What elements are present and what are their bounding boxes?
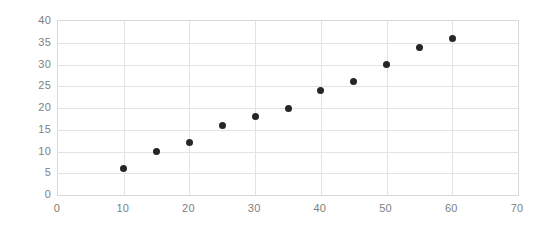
gridline-vertical bbox=[189, 21, 190, 195]
plot-area bbox=[57, 20, 519, 196]
gridline-horizontal bbox=[58, 43, 518, 44]
data-point bbox=[153, 148, 160, 155]
y-tick-label: 10 bbox=[7, 146, 51, 157]
x-tick-label: 0 bbox=[37, 203, 77, 214]
gridline-horizontal bbox=[58, 173, 518, 174]
gridline-vertical bbox=[452, 21, 453, 195]
gridline-horizontal bbox=[58, 86, 518, 87]
y-tick-label: 5 bbox=[7, 167, 51, 178]
gridline-vertical bbox=[387, 21, 388, 195]
y-tick-label: 30 bbox=[7, 59, 51, 70]
x-tick-label: 20 bbox=[168, 203, 208, 214]
x-tick-label: 60 bbox=[431, 203, 471, 214]
gridline-vertical bbox=[321, 21, 322, 195]
data-point bbox=[449, 35, 456, 42]
y-tick-label: 0 bbox=[7, 189, 51, 200]
data-point bbox=[317, 87, 324, 94]
x-tick-label: 10 bbox=[103, 203, 143, 214]
data-point bbox=[219, 122, 226, 129]
x-tick-label: 40 bbox=[300, 203, 340, 214]
gridline-horizontal bbox=[58, 152, 518, 153]
y-axis-labels: 0510152025303540 bbox=[0, 20, 51, 196]
data-point bbox=[186, 139, 193, 146]
data-point bbox=[383, 61, 390, 68]
data-point bbox=[120, 165, 127, 172]
data-point bbox=[416, 44, 423, 51]
y-tick-label: 25 bbox=[7, 80, 51, 91]
x-tick-label: 70 bbox=[497, 203, 537, 214]
x-tick-label: 30 bbox=[234, 203, 274, 214]
y-tick-label: 40 bbox=[7, 15, 51, 26]
scatter-chart: 0510152025303540 010203040506070 bbox=[0, 0, 551, 228]
x-axis-labels: 010203040506070 bbox=[57, 203, 519, 219]
data-point bbox=[285, 105, 292, 112]
y-tick-label: 15 bbox=[7, 124, 51, 135]
gridline-horizontal bbox=[58, 65, 518, 66]
y-tick-label: 35 bbox=[7, 37, 51, 48]
data-point bbox=[252, 113, 259, 120]
data-point bbox=[350, 78, 357, 85]
x-tick-label: 50 bbox=[366, 203, 406, 214]
y-tick-label: 20 bbox=[7, 102, 51, 113]
gridline-horizontal bbox=[58, 130, 518, 131]
gridline-vertical bbox=[255, 21, 256, 195]
